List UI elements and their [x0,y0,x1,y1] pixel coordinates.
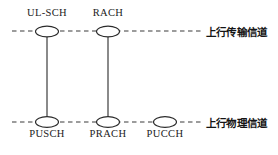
node-label-rach: RACH [93,7,124,18]
channel-mapping-diagram: UL-SCH RACH PUSCH PRACH PUCCH 上行传输信道 上行物… [0,0,278,155]
node-ellipse-rach[interactable] [97,26,120,37]
node-label-ul-sch: UL-SCH [27,7,67,18]
layer-label-uplink-transport-channel: 上行传输信道 [206,24,267,39]
node-ellipse-ul-sch[interactable] [36,26,59,37]
node-label-pucch: PUCCH [147,128,184,139]
node-ellipse-pusch[interactable] [36,117,59,128]
layer-label-uplink-physical-channel: 上行物理信道 [206,115,267,130]
node-ellipse-pucch[interactable] [154,117,177,128]
node-label-pusch: PUSCH [29,128,65,139]
node-label-prach: PRACH [90,128,127,139]
node-ellipse-prach[interactable] [97,117,120,128]
